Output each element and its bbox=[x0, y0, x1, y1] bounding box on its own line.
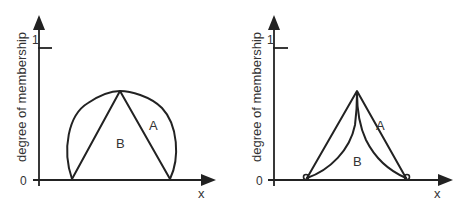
x-axis-arrow-icon bbox=[201, 174, 216, 186]
y-axis-arrow-icon bbox=[33, 15, 45, 30]
y-tick-label-zero: 0 bbox=[20, 174, 27, 188]
y-axis-arrow-icon bbox=[268, 15, 280, 30]
y-tick-label-zero: 0 bbox=[256, 174, 263, 188]
y-axis-label: degree of membership bbox=[14, 32, 29, 162]
y-axis-label: degree of membership bbox=[249, 32, 264, 162]
y-tick-label-one: 1 bbox=[267, 33, 274, 47]
x-axis-arrow-icon bbox=[438, 174, 453, 186]
base-point-left-icon bbox=[304, 175, 309, 180]
left-diagram: 1 0 x degree of membership A B bbox=[14, 15, 216, 201]
y-tick-label-one: 1 bbox=[32, 33, 39, 47]
region-label-a: A bbox=[149, 118, 158, 133]
base-point-right-icon bbox=[405, 175, 410, 180]
x-axis-label: x bbox=[434, 186, 441, 201]
x-axis-label: x bbox=[198, 186, 205, 201]
membership-curve-a bbox=[67, 91, 176, 179]
region-label-b: B bbox=[116, 136, 125, 151]
right-diagram: 1 0 x degree of membership A B bbox=[249, 15, 453, 201]
region-label-a: A bbox=[376, 118, 385, 133]
membership-diagrams: 1 0 x degree of membership A B 1 0 x deg… bbox=[0, 0, 469, 206]
region-label-b: B bbox=[353, 154, 362, 169]
